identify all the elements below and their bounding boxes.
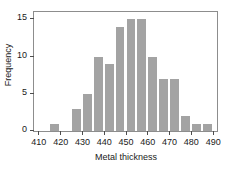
- x-axis-tick: 440: [104, 131, 105, 135]
- y-axis-tick-label: 5: [22, 87, 27, 97]
- x-axis-tick: 430: [82, 131, 83, 135]
- histogram-bar: [93, 57, 104, 131]
- x-axis-tick: 450: [126, 131, 127, 135]
- histogram-bar: [71, 109, 82, 131]
- histogram-bar: [158, 79, 169, 131]
- x-axis-tick-label: 440: [97, 137, 112, 147]
- histogram-bar: [126, 19, 137, 131]
- bars-container: [34, 12, 217, 131]
- x-axis-tick-label: 470: [162, 137, 177, 147]
- x-axis-tick-label: 450: [118, 137, 133, 147]
- y-axis-tick: 5: [30, 93, 34, 94]
- histogram-figure: Frequency 051015410420430440450460470480…: [0, 0, 226, 170]
- histogram-bar: [82, 94, 93, 131]
- y-axis-title: Frequency: [0, 0, 16, 130]
- x-axis-tick-label: 460: [140, 137, 155, 147]
- x-axis-tick: 460: [147, 131, 148, 135]
- x-axis-tick: 480: [191, 131, 192, 135]
- histogram-bar: [49, 124, 60, 131]
- histogram-bar: [136, 19, 147, 131]
- histogram-bar: [104, 64, 115, 131]
- histogram-bar: [147, 57, 158, 131]
- x-axis-tick-label: 430: [75, 137, 90, 147]
- x-axis-tick: 490: [213, 131, 214, 135]
- histogram-bar: [169, 79, 180, 131]
- histogram-bar: [202, 124, 213, 131]
- y-axis-tick: 0: [30, 130, 34, 131]
- histogram-bar: [191, 124, 202, 131]
- x-axis-tick-label: 490: [206, 137, 221, 147]
- y-axis-tick-label: 15: [17, 12, 27, 22]
- y-axis-tick-label: 0: [22, 124, 27, 134]
- y-axis-tick: 15: [30, 18, 34, 19]
- plot-area: 051015410420430440450460470480490: [33, 11, 218, 132]
- x-axis-tick: 410: [38, 131, 39, 135]
- x-axis-tick-label: 410: [31, 137, 46, 147]
- y-axis-title-text: Frequency: [3, 44, 13, 87]
- y-axis-tick-label: 10: [17, 50, 27, 60]
- x-axis-tick: 420: [60, 131, 61, 135]
- histogram-bar: [115, 27, 126, 131]
- x-axis-tick: 470: [169, 131, 170, 135]
- x-axis-tick-label: 420: [53, 137, 68, 147]
- y-axis-tick: 10: [30, 56, 34, 57]
- histogram-bar: [180, 116, 191, 131]
- x-axis-title: Metal thickness: [33, 152, 219, 162]
- x-axis-tick-label: 480: [184, 137, 199, 147]
